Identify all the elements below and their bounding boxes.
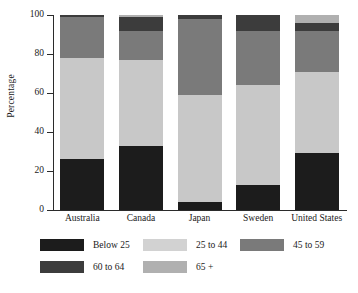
legend-label: 45 to 59 (293, 240, 324, 250)
bar-segment (236, 31, 280, 86)
bar-segment (236, 15, 280, 31)
bar-segment (60, 58, 104, 159)
bar-segment (295, 153, 339, 210)
y-axis-title: Percentage (6, 74, 16, 118)
legend-swatch (240, 239, 284, 251)
legend-swatch (143, 261, 187, 273)
bar-segment (119, 146, 163, 210)
y-tick-label: 20 (35, 166, 45, 176)
x-axis-line (53, 210, 347, 211)
chart-legend: Below 2525 to 4445 to 5960 to 6465 + (40, 234, 340, 278)
bar-segment (295, 31, 339, 72)
bar-segment (119, 60, 163, 146)
x-axis-label: Australia (65, 213, 100, 223)
y-tick-label: 80 (35, 49, 45, 59)
stacked-bar-chart: Percentage 020406080100 AustraliaCanadaJ… (0, 0, 358, 293)
bar-segment (119, 31, 163, 60)
bar-segment (60, 17, 104, 58)
legend-swatch (143, 239, 187, 251)
legend-row: Below 2525 to 4445 to 59 (40, 234, 340, 256)
y-tick-label: 60 (35, 88, 45, 98)
legend-item: Below 25 (40, 239, 130, 251)
bar-segment (295, 23, 339, 31)
bar-segment (178, 19, 222, 95)
bar-segment (178, 95, 222, 202)
legend-label: Below 25 (93, 240, 130, 250)
y-tick-label: 100 (30, 10, 44, 20)
legend-swatch (40, 239, 84, 251)
legend-item: 45 to 59 (240, 239, 324, 251)
legend-item: 60 to 64 (40, 261, 124, 273)
legend-item: 65 + (143, 261, 213, 273)
bar-segment (236, 185, 280, 210)
y-tick-mark (47, 210, 53, 211)
bar-segment (119, 17, 163, 31)
x-axis-label: Sweden (243, 213, 273, 223)
bar-segment (178, 202, 222, 210)
bar-australia (60, 15, 104, 210)
bar-segment (295, 72, 339, 154)
bar-segment (295, 15, 339, 23)
bar-canada (119, 15, 163, 210)
y-tick-label: 40 (35, 127, 45, 137)
bar-sweden (236, 15, 280, 210)
legend-label: 60 to 64 (93, 262, 124, 272)
x-axis-label: Canada (127, 213, 156, 223)
plot-area (53, 15, 346, 210)
legend-label: 65 + (196, 262, 213, 272)
y-tick-label: 0 (39, 205, 44, 215)
bar-segment (60, 159, 104, 210)
legend-swatch (40, 261, 84, 273)
legend-label: 25 to 44 (196, 240, 227, 250)
bar-segment (236, 85, 280, 184)
bar-united-states (295, 15, 339, 210)
bar-japan (178, 15, 222, 210)
x-axis-label: United States (291, 213, 342, 223)
x-axis-label: Japan (189, 213, 211, 223)
legend-item: 25 to 44 (143, 239, 227, 251)
legend-row: 60 to 6465 + (40, 256, 340, 278)
